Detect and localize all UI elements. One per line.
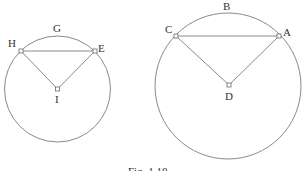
radius-HI: [21, 51, 58, 89]
arc-label-B: B: [223, 0, 230, 12]
arc-label-G: G: [53, 22, 61, 34]
right-diagram: B C A D: [155, 0, 301, 159]
point-label-I: I: [55, 93, 59, 105]
point-label-C: C: [165, 23, 172, 35]
radius-CD: [176, 36, 229, 85]
point-label-A: A: [283, 26, 291, 38]
point-label-E: E: [98, 42, 105, 54]
point-A-marker: [277, 34, 281, 38]
point-I-marker: [56, 87, 60, 91]
point-label-D: D: [225, 90, 233, 102]
point-D-marker: [227, 83, 231, 87]
point-H-marker: [19, 49, 23, 53]
point-label-H: H: [8, 37, 16, 49]
radius-EI: [58, 51, 96, 89]
point-C-marker: [174, 34, 178, 38]
geometry-figure: G H E I B C A D Fig. 1.18: [0, 0, 302, 171]
left-diagram: G H E I: [5, 22, 111, 142]
radius-AD: [229, 36, 279, 85]
point-E-marker: [93, 49, 97, 53]
figure-caption: Fig. 1.18: [128, 165, 168, 171]
